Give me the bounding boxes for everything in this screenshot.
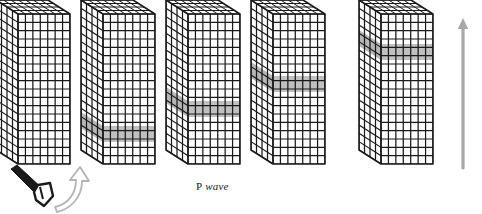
block-2 <box>81 0 155 164</box>
block-3 <box>166 0 240 164</box>
block-4 <box>251 0 325 164</box>
block-5 <box>359 0 433 164</box>
propagation-arrow-head <box>458 18 468 29</box>
upward-propagation-arrow <box>458 18 468 168</box>
block-1 <box>0 0 70 164</box>
p-wave-caption-italic-word: wave <box>205 180 228 192</box>
hammer-icon <box>11 165 53 206</box>
swing-arrow-body <box>55 167 89 212</box>
p-wave-propagation-figure <box>0 0 482 214</box>
p-wave-caption: P wave <box>196 180 229 192</box>
hammer-head <box>34 183 53 206</box>
curved-swing-arrow-icon <box>55 167 89 212</box>
